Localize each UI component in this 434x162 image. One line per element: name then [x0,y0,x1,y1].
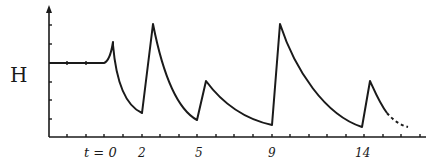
extrapolated-curve [387,113,408,127]
y-axis-label: H [10,63,27,87]
y-axis-arrow-icon [46,5,52,13]
x-label-2: 2 [137,146,146,160]
response-curve [49,24,387,127]
x-label-t0: t = 0 [84,145,117,160]
x-label-14: 14 [355,146,370,160]
axes [49,9,426,137]
x-label-5: 5 [195,146,203,160]
chart-canvas: H t = 0 2 5 9 14 [0,0,434,162]
x-label-9: 9 [268,146,276,160]
